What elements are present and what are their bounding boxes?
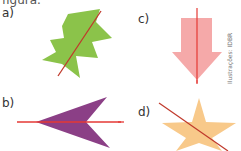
- figure-d-star-shape: [159, 98, 236, 151]
- figure-b-arrowhead-shape: [17, 97, 121, 148]
- illustration-credit: Ilustrações: IDBR: [226, 33, 233, 84]
- figure-c-down-arrow-shape: [172, 8, 222, 84]
- figure-a-zigzag-shape: [42, 9, 112, 78]
- figures-canvas: [0, 0, 241, 151]
